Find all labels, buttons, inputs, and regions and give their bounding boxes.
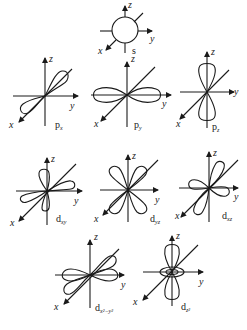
- z-axis-label: z: [130, 53, 135, 64]
- dxz-orbital: z y x dxz: [174, 147, 239, 222]
- y-axis-label: y: [149, 33, 155, 44]
- y-axis-label: y: [198, 276, 204, 287]
- z-axis-label: z: [50, 153, 55, 164]
- z-axis-label: z: [131, 150, 136, 161]
- orbital-label-dyz: dyz: [150, 213, 161, 225]
- s-orbital: z y x s: [97, 0, 155, 56]
- x-axis-label: x: [174, 210, 180, 221]
- s-sphere: [112, 17, 138, 43]
- y-axis-label: y: [233, 191, 239, 202]
- x-axis-label: x: [132, 296, 138, 307]
- orbital-diagram: z y x s z y x px z y x py z y x pz: [0, 0, 247, 330]
- axes: [100, 6, 152, 53]
- z-axis-label: z: [127, 0, 132, 10]
- z-axis-label: z: [48, 53, 53, 64]
- dyz-orbital: z y x dyz: [93, 150, 161, 225]
- py-orbital: z y x py: [91, 53, 171, 131]
- orbital-label-dx2y2: dx²−y²: [95, 302, 113, 314]
- orbital-label-dxy: dxy: [56, 213, 67, 225]
- orbital-label-dxz: dxz: [222, 210, 233, 222]
- orbital-label-dz2: dz²: [181, 301, 190, 313]
- dxy-orbital: z y x dxy: [9, 153, 82, 228]
- x-axis-label: x: [53, 301, 59, 312]
- y-axis-label: y: [120, 279, 126, 290]
- orbital-label-px: px: [55, 119, 63, 131]
- x-axis-label: x: [8, 119, 14, 130]
- z-axis-label: z: [175, 230, 180, 241]
- dx2y2-orbital: z y x dx²−y²: [53, 231, 126, 314]
- y-axis-label: y: [73, 195, 79, 206]
- y-axis-label: y: [161, 98, 167, 109]
- pz-orbital: z y x pz: [175, 46, 239, 133]
- orbital-label-pz: pz: [212, 121, 220, 133]
- px-orbital: z y x px: [8, 53, 78, 131]
- dz2-orbital: z y x dz²: [132, 230, 204, 313]
- z-axis-label: z: [93, 231, 98, 242]
- x-axis-label: x: [93, 213, 99, 224]
- x-axis-label: x: [9, 217, 15, 228]
- x-axis-label: x: [97, 45, 103, 56]
- y-axis-label: y: [69, 100, 75, 111]
- y-axis-label: y: [233, 86, 239, 97]
- orbital-label-py: py: [134, 119, 142, 131]
- x-axis-label: x: [175, 118, 181, 129]
- y-axis-label: y: [154, 194, 160, 205]
- z-axis-label: z: [210, 46, 215, 57]
- x-axis-label: x: [93, 118, 99, 129]
- z-axis-label: z: [212, 147, 217, 158]
